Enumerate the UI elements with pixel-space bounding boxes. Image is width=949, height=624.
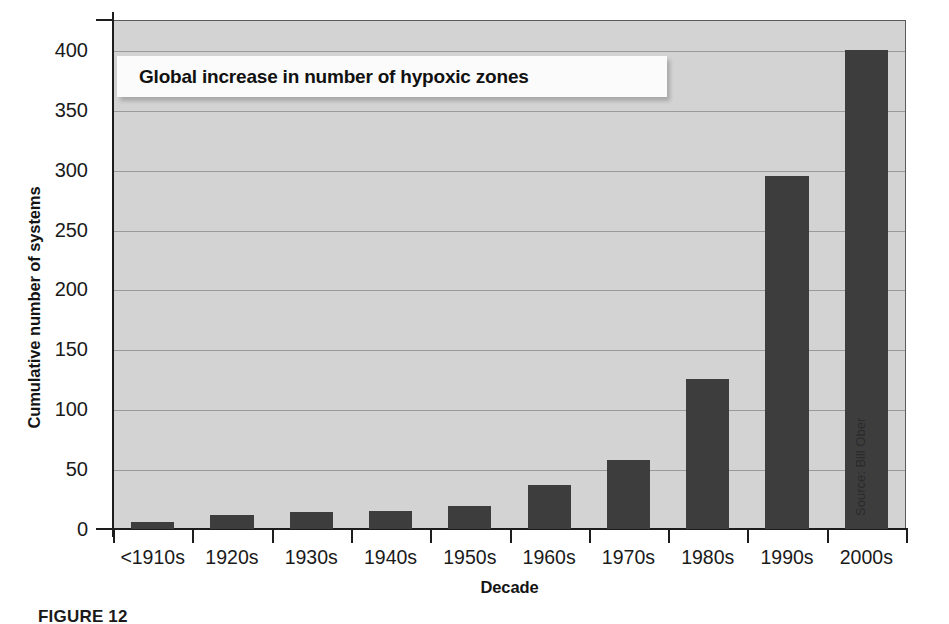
x-axis-tick-label: 1940s xyxy=(364,546,417,569)
x-axis-title: Decade xyxy=(113,578,906,597)
y-axis-tick-label: 300 xyxy=(20,158,88,181)
bar xyxy=(290,512,333,529)
x-axis-tick-mark xyxy=(272,530,274,543)
bar xyxy=(607,460,650,529)
x-axis-tick-label: 1980s xyxy=(681,546,734,569)
x-axis-tick-label: 2000s xyxy=(840,546,893,569)
y-axis-tick-labels: 050100150200250300350400 xyxy=(20,20,88,529)
x-axis-tick-label: 1930s xyxy=(285,546,338,569)
y-axis-top-stub xyxy=(96,19,114,21)
x-axis-tick-mark xyxy=(510,530,512,543)
x-axis-tick-mark xyxy=(113,530,115,543)
bar xyxy=(448,506,491,529)
figure-caption: FIGURE 12 xyxy=(38,607,128,624)
bar xyxy=(528,485,571,529)
x-axis-tick-mark xyxy=(668,530,670,543)
figure-container: Cumulative number of systems 05010015020… xyxy=(0,0,949,624)
x-axis-tick-mark xyxy=(192,530,194,543)
x-axis-tick-label: 1970s xyxy=(602,546,655,569)
x-axis-tick-mark xyxy=(906,530,908,543)
y-axis-tick-label: 150 xyxy=(20,338,88,361)
chart-title-box: Global increase in number of hypoxic zon… xyxy=(117,56,667,97)
x-axis-tick-marks xyxy=(113,530,906,544)
bar xyxy=(210,515,253,529)
x-axis-tick-label: 1990s xyxy=(760,546,813,569)
x-axis-tick-label: 1960s xyxy=(523,546,576,569)
y-axis-tick-label: 0 xyxy=(20,518,88,541)
x-axis-tick-mark xyxy=(747,530,749,543)
x-axis-tick-label: <1910s xyxy=(120,546,185,569)
bar xyxy=(369,511,412,529)
x-axis-tick-label: 1950s xyxy=(443,546,496,569)
chart-title-text: Global increase in number of hypoxic zon… xyxy=(139,66,529,88)
x-axis-tick-mark xyxy=(351,530,353,543)
y-axis-tick-label: 50 xyxy=(20,458,88,481)
bar xyxy=(686,379,729,529)
bar xyxy=(765,176,808,529)
x-axis-tick-labels: <1910s1920s1930s1940s1950s1960s1970s1980… xyxy=(113,546,906,574)
bar xyxy=(131,522,174,529)
y-axis-tick-label: 100 xyxy=(20,398,88,421)
x-axis-tick-mark xyxy=(827,530,829,543)
source-credit: Source: Bill Ober xyxy=(853,336,868,516)
y-axis-tick-label: 200 xyxy=(20,278,88,301)
y-axis-tick-label: 350 xyxy=(20,98,88,121)
x-axis-tick-mark xyxy=(430,530,432,543)
x-axis-tick-label: 1920s xyxy=(205,546,258,569)
x-axis-tick-mark xyxy=(589,530,591,543)
y-axis-tick-label: 250 xyxy=(20,218,88,241)
y-axis-tick-label: 400 xyxy=(20,38,88,61)
